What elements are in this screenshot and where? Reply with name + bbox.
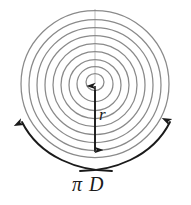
right-rotation-arrow: [80, 122, 170, 171]
circumference-label: π D: [72, 173, 104, 196]
left-rotation-arrow: [22, 122, 112, 171]
radius-label: r: [99, 105, 106, 125]
figure-container: r π D: [0, 0, 191, 205]
